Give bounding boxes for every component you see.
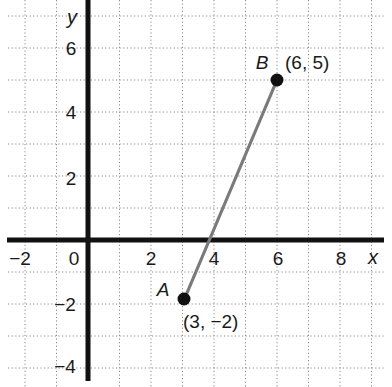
x-tick-label: 0 <box>69 248 80 269</box>
y-tick-label: 4 <box>66 102 77 123</box>
point-b-name: B <box>256 52 269 73</box>
point-a-coord: (3, −2) <box>183 311 238 332</box>
y-tick-label: 2 <box>66 168 77 189</box>
point-a-name: A <box>156 279 170 300</box>
y-tick-label: −4 <box>54 356 76 377</box>
point-b-coord: (6, 5) <box>285 52 329 73</box>
x-tick-label: 2 <box>146 248 157 269</box>
x-tick-label: −2 <box>9 248 31 269</box>
segment-ab <box>184 80 277 300</box>
point-b-dot <box>271 74 284 87</box>
y-tick-label: 6 <box>66 38 77 59</box>
x-tick-label: 4 <box>209 248 220 269</box>
y-axis-label: y <box>65 6 78 28</box>
x-tick-label: 8 <box>336 248 347 269</box>
x-tick-label: 6 <box>273 248 284 269</box>
x-axis-label: x <box>367 246 379 268</box>
y-tick-label: −2 <box>54 294 76 315</box>
point-a-dot <box>178 293 191 306</box>
coordinate-plane: y x −2 0 2 4 6 8 6 4 2 −2 −4 B (6, 5) A … <box>0 0 392 387</box>
